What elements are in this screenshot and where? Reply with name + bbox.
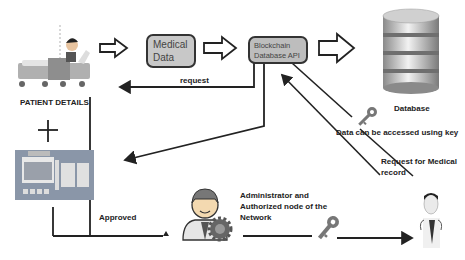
request-label: request <box>180 75 209 86</box>
patient-in-bed-icon <box>18 25 90 87</box>
doctor-icon <box>420 193 441 248</box>
database-cylinder-icon <box>383 9 439 94</box>
patient-details-label: PATIENT DETAILS <box>20 97 89 108</box>
record-request-line1: Request for Medical <box>381 156 457 167</box>
admin-gear-icon <box>183 189 231 240</box>
medical-data-label-line2: Data <box>153 51 189 64</box>
hospital-building-icon <box>15 150 94 200</box>
data-access-label: Data can be accessed using key <box>336 127 458 138</box>
blockchain-api-label-line2: Database API <box>254 51 302 61</box>
flow-arrow-api-to-database <box>319 34 354 62</box>
medical-data-box: Medical Data <box>146 34 196 68</box>
administrator-label-line1: Administrator and <box>240 190 327 201</box>
approved-label: Approved <box>99 212 136 223</box>
blockchain-api-label-line1: Blockchain <box>254 41 302 51</box>
administrator-label-line2: Authorized node of the <box>240 201 327 212</box>
database-label: Database <box>394 103 430 114</box>
administrator-label-line3: Network <box>240 212 327 223</box>
administrator-label: Administrator and Authorized node of the… <box>240 190 327 223</box>
medical-data-label-line1: Medical <box>153 38 189 51</box>
key-icon <box>356 105 379 128</box>
flow-arrow-medical-data-to-api <box>204 37 236 59</box>
record-request-label: Request for Medical record <box>381 156 457 178</box>
flow-arrow-patient-to-medical-data <box>100 39 127 57</box>
record-request-line2: record <box>381 167 457 178</box>
plus-icon <box>38 120 58 142</box>
blockchain-api-box: Blockchain Database API <box>248 36 308 64</box>
